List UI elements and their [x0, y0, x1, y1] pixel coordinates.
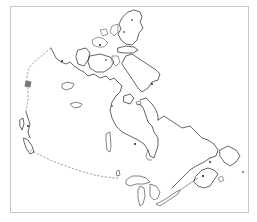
sable-island	[242, 171, 244, 173]
victoria-island	[88, 54, 114, 72]
islets	[27, 19, 211, 177]
newfoundland	[220, 146, 240, 166]
ungava-labrador-coast	[158, 116, 218, 158]
cape-breton	[218, 176, 224, 182]
lake-winnipeg	[116, 170, 120, 176]
bc-coast	[26, 112, 30, 138]
lake-michigan	[138, 186, 145, 206]
haida-gwaii	[20, 118, 24, 130]
canada-map	[0, 0, 257, 222]
southampton-island	[124, 94, 134, 104]
arctic-mainland-coast	[51, 48, 122, 96]
location-marker	[25, 81, 32, 88]
lake-superior	[126, 176, 150, 186]
vancouver-island	[24, 138, 34, 154]
st-lawrence-north-shore	[172, 158, 210, 188]
alaska-border-line	[26, 48, 51, 112]
great-bear-lake	[62, 82, 74, 90]
devon-island	[118, 46, 138, 53]
james-bay	[146, 150, 152, 160]
hudson-strait-south	[140, 98, 158, 120]
hudson-bay	[110, 96, 158, 158]
lake-athabasca	[106, 132, 111, 152]
banks-island	[76, 48, 90, 66]
axel-heiberg	[110, 24, 118, 36]
ellesmere-island	[118, 10, 143, 45]
st-lawrence-river	[180, 178, 198, 190]
great-slave-lake	[70, 102, 82, 108]
lake-huron	[150, 184, 160, 200]
baffin-island	[122, 54, 160, 92]
us-border-line	[30, 150, 120, 178]
